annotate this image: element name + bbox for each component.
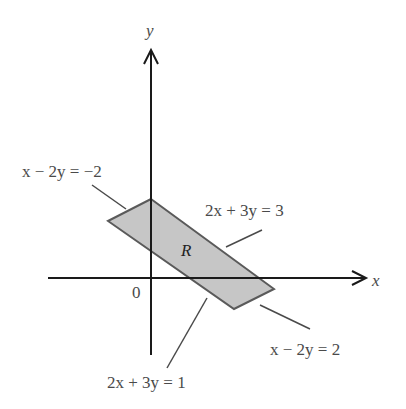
equation-label-bottom-left: 2x + 3y = 1 bbox=[107, 374, 186, 391]
origin-label: 0 bbox=[132, 284, 141, 301]
leader-line-eq4 bbox=[167, 298, 207, 368]
equation-label-top-left: x − 2y = −2 bbox=[22, 163, 102, 180]
coordinate-diagram: y x 0 R x − 2y = −2 2x + 3y = 3 x − 2y =… bbox=[0, 0, 406, 409]
leader-line-eq3 bbox=[260, 305, 310, 329]
leader-line-eq2 bbox=[226, 230, 262, 247]
y-axis-label: y bbox=[146, 22, 154, 39]
diagram-canvas bbox=[0, 0, 406, 409]
x-axis-label: x bbox=[372, 272, 380, 289]
equation-label-top-right: 2x + 3y = 3 bbox=[205, 202, 284, 219]
leader-line-eq1 bbox=[92, 185, 126, 209]
equation-label-bottom-right: x − 2y = 2 bbox=[270, 341, 340, 358]
region-label: R bbox=[181, 242, 191, 259]
